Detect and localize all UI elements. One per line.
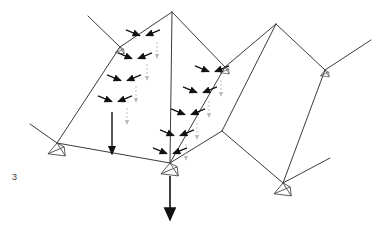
member-hip-mid-right [225, 24, 276, 67]
ridge-load-group-left-pair-2 [107, 75, 141, 81]
arrow-right [173, 148, 187, 154]
distributed-load-arrows [98, 30, 229, 154]
arrow-right [203, 87, 217, 93]
arrow-left [171, 109, 185, 115]
member-eave-left-tip [30, 124, 57, 143]
arrow-left [126, 30, 140, 36]
support-symbol-right [274, 183, 291, 196]
arrow-left [183, 87, 197, 93]
ridge-load-group-left-pair-3 [98, 96, 132, 102]
member-ridge-left-upper [120, 12, 172, 47]
arrow-right [146, 30, 160, 36]
member-eave-left [57, 143, 170, 163]
frame-members [30, 12, 371, 183]
arrow-right [180, 130, 194, 136]
arrow-right [118, 96, 132, 102]
ghost-load-arrows [127, 42, 221, 160]
member-eave-mid [170, 131, 222, 163]
member-ridge-right-lower [283, 70, 325, 183]
arrow-left [118, 53, 132, 59]
arrow-left [195, 66, 209, 72]
arrow-right [127, 75, 141, 81]
member-ridge-mid-upper [172, 12, 225, 67]
point-load-arrows [112, 112, 170, 220]
member-valley-left [170, 12, 172, 163]
arrow-left [153, 148, 167, 154]
arrow-left [98, 96, 112, 102]
member-hip-left-tip [88, 16, 120, 47]
structural-diagram [0, 0, 389, 232]
member-eave-right [222, 131, 283, 183]
arrow-left [160, 130, 174, 136]
support-symbol-left [48, 143, 65, 156]
arrow-right [138, 53, 152, 59]
member-eave-right-tip [283, 158, 330, 183]
member-hip-right-tip [325, 40, 371, 70]
support-symbol-center [161, 163, 178, 176]
ridge-load-group-left-pair-0 [126, 30, 160, 36]
member-ridge-right-upper [276, 24, 325, 70]
member-ridge-left-lower [57, 47, 120, 143]
figure-number-label: 3 [12, 172, 17, 182]
figure-canvas: 3 [0, 0, 389, 232]
member-ridge-mid-lower [170, 67, 225, 163]
member-valley-mid [222, 24, 276, 131]
arrow-left [107, 75, 121, 81]
